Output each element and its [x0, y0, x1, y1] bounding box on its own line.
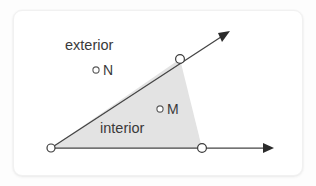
exterior-label: exterior	[65, 38, 113, 53]
point-n-marker	[93, 67, 99, 73]
point-n-label: N	[103, 63, 113, 77]
lower-ray-arrowhead-icon	[263, 143, 274, 153]
point-m-label: M	[167, 102, 179, 116]
vertex-point-marker	[47, 144, 55, 152]
upper-ray-point-marker	[176, 55, 185, 64]
interior-label: interior	[100, 121, 144, 136]
angle-figure	[0, 0, 316, 186]
point-m-marker	[157, 106, 163, 112]
diagram-stage: exterior interior N M	[0, 0, 316, 186]
lower-ray-point-marker	[198, 144, 207, 153]
upper-ray-arrowhead-icon	[218, 31, 230, 42]
